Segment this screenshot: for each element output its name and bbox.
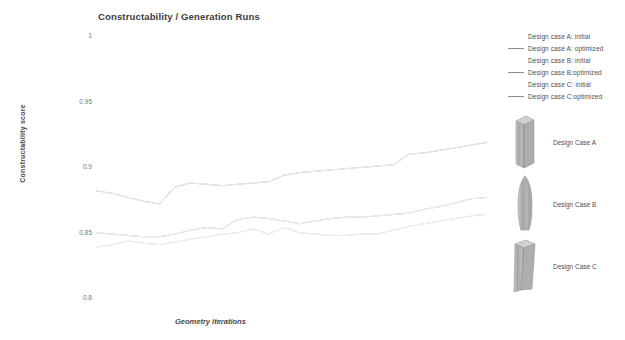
series-point — [159, 236, 161, 238]
legend-swatch-line-icon — [508, 36, 524, 37]
series-point — [205, 236, 207, 238]
tapered-bullet-column-icon — [505, 174, 545, 234]
chart-figure: Constructability / Generation Runs Const… — [0, 0, 625, 340]
series-point — [205, 227, 207, 229]
y-axis-tick-1: 1 — [88, 32, 92, 39]
series-point — [330, 169, 332, 171]
design-case-thumbnail[interactable]: Design Case B — [505, 174, 625, 234]
series-point — [393, 229, 395, 231]
series-point — [237, 232, 239, 234]
series-point — [221, 185, 223, 187]
series-point — [393, 164, 395, 166]
design-case-geometry-preview — [505, 174, 545, 234]
legend-item-label: Design case A: initial — [528, 33, 590, 40]
legend-item-label: Design case A: optimized — [528, 45, 603, 52]
legend-item-label: Design case B: initial — [528, 57, 591, 64]
series-point — [252, 228, 254, 230]
series-point — [315, 233, 317, 235]
series-point — [439, 220, 441, 222]
design-case-thumbnail[interactable]: Design Case C — [505, 236, 625, 296]
y-axis-title: Constructability score — [19, 84, 26, 204]
chart-legend: Design case A: initialDesign case A: opt… — [508, 30, 623, 102]
series-point — [361, 233, 363, 235]
series-point — [127, 235, 129, 237]
series-point — [190, 229, 192, 231]
series-point — [268, 181, 270, 183]
series-point — [299, 223, 301, 225]
series-point — [471, 144, 473, 146]
series-line — [97, 214, 487, 247]
series-point — [96, 246, 98, 248]
series-point — [439, 150, 441, 152]
series-point — [143, 243, 145, 245]
legend-item[interactable]: Design case C:optimized — [508, 90, 623, 102]
series-point — [424, 152, 426, 154]
series-point — [221, 233, 223, 235]
series-point — [486, 197, 488, 199]
series-point — [471, 215, 473, 217]
line-chart-svg — [95, 30, 495, 292]
design-case-caption: Design Case A — [553, 139, 596, 146]
legend-swatch-line-icon — [508, 48, 524, 49]
legend-item[interactable]: Design case A: optimized — [508, 42, 623, 54]
series-point — [143, 236, 145, 238]
series-point — [393, 214, 395, 216]
series-point — [283, 174, 285, 176]
series-point — [159, 244, 161, 246]
y-axis-tick-0-95: 0.95 — [79, 97, 92, 104]
series-point — [174, 241, 176, 243]
flared-base-column-icon — [505, 236, 545, 296]
legend-item[interactable]: Design case B: initial — [508, 54, 623, 66]
series-point — [299, 232, 301, 234]
series-point — [408, 212, 410, 214]
design-case-thumbnail[interactable]: Design Case A — [505, 112, 625, 172]
series-point — [237, 219, 239, 221]
legend-swatch-line-icon — [508, 84, 524, 85]
series-point — [283, 220, 285, 222]
series-point — [299, 172, 301, 174]
series-point — [96, 190, 98, 192]
plot-area — [95, 30, 495, 292]
series-line — [97, 142, 487, 204]
series-point — [330, 235, 332, 237]
design-case-geometry-preview — [505, 112, 545, 172]
series-point — [268, 233, 270, 235]
series-point — [377, 165, 379, 167]
legend-item-label: Design case C:optimized — [528, 93, 602, 100]
legend-item-label: Design case C: initial — [528, 81, 591, 88]
series-point — [127, 240, 129, 242]
series-point — [361, 167, 363, 169]
legend-item-label: Design case B:optimized — [528, 69, 602, 76]
series-point — [315, 170, 317, 172]
legend-swatch-line-icon — [508, 60, 524, 61]
series-point — [237, 184, 239, 186]
series-point — [377, 215, 379, 217]
series-point — [283, 227, 285, 229]
series-point — [346, 216, 348, 218]
series-point — [268, 218, 270, 220]
legend-item[interactable]: Design case C: initial — [508, 78, 623, 90]
series-point — [96, 232, 98, 234]
y-axis-tick-0-8: 0.8 — [83, 294, 92, 301]
y-axis-tick-labels: 10.950.90.850.8 — [58, 30, 92, 292]
design-case-geometry-preview — [505, 236, 545, 296]
legend-item[interactable]: Design case B:optimized — [508, 66, 623, 78]
design-case-thumbnails: Design Case ADesign Case BDesign Case C — [505, 112, 625, 302]
legend-item[interactable]: Design case A: initial — [508, 30, 623, 42]
legend-swatch-line-icon — [508, 96, 524, 97]
legend-swatch-line-icon — [508, 72, 524, 73]
series-point — [439, 206, 441, 208]
series-point — [127, 197, 129, 199]
series-point — [174, 233, 176, 235]
series-point — [112, 193, 114, 195]
series-point — [205, 184, 207, 186]
series-point — [408, 153, 410, 155]
y-axis-tick-0-85: 0.85 — [79, 228, 92, 235]
series-point — [190, 239, 192, 241]
series-point — [252, 182, 254, 184]
series-point — [143, 201, 145, 203]
series-point — [486, 142, 488, 144]
series-point — [408, 226, 410, 228]
series-point — [112, 233, 114, 235]
series-point — [159, 203, 161, 205]
